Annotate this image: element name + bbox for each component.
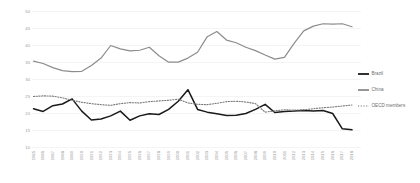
x-axis-tick-label: 1985	[31, 150, 36, 160]
y-axis-tick-label: 30	[25, 77, 30, 82]
y-axis-tick-label: 40	[25, 43, 30, 48]
y-axis-tick-label: 10	[25, 145, 30, 150]
x-axis-tick-label: 1996	[137, 150, 142, 160]
x-axis-tick-label: 1999	[166, 150, 171, 160]
legend-label-oecd-members: OECD members	[372, 103, 406, 108]
y-axis-tick-label: 15	[25, 128, 30, 133]
x-axis-tick-label: 2014	[310, 150, 315, 160]
x-axis-tick-label: 1993	[108, 150, 113, 160]
series-lines	[34, 24, 353, 130]
series-line-china	[34, 24, 353, 72]
x-axis-tick-label: 2016	[330, 150, 335, 160]
y-axis-tick-label: 20	[25, 111, 30, 116]
x-axis-tick-label: 2001	[185, 150, 190, 160]
y-axis-tick-label: 25	[25, 94, 30, 99]
x-axis-tick-label: 2015	[320, 150, 325, 160]
chart-container: 101520253035404550 198519861987198819891…	[0, 0, 420, 183]
x-axis-tick-label: 1997	[146, 150, 151, 160]
x-axis-tick-label: 1989	[69, 150, 74, 160]
y-axis-tick-label: 45	[25, 26, 30, 31]
y-axis-tick-label: 35	[25, 60, 30, 65]
x-axis-tick-label: 1990	[79, 150, 84, 160]
y-axis-tick-labels: 101520253035404550	[25, 9, 30, 150]
chart-legend: BrazilChinaOECD members	[358, 71, 406, 108]
x-axis-tick-label: 2005	[224, 150, 229, 160]
x-axis-tick-label: 2008	[253, 150, 258, 160]
x-axis-tick-label: 1992	[98, 150, 103, 160]
x-axis-tick-label: 1987	[50, 150, 55, 160]
line-chart: 101520253035404550 198519861987198819891…	[0, 0, 420, 183]
x-axis-tick-label: 1988	[60, 150, 65, 160]
x-axis-tick-label: 2012	[291, 150, 296, 160]
x-axis-tick-labels: 1985198619871988198919901991199219931994…	[31, 150, 355, 160]
x-axis-tick-label: 1994	[117, 150, 122, 160]
legend-label-brazil: Brazil	[372, 71, 384, 76]
x-axis-tick-label: 2010	[272, 150, 277, 160]
x-axis-tick-label: 1998	[156, 150, 161, 160]
x-axis-tick-label: 2017	[339, 150, 344, 160]
x-axis-tick-label: 2007	[243, 150, 248, 160]
x-axis-tick-label: 2018	[349, 150, 354, 160]
gridlines	[32, 12, 361, 148]
y-axis-tick-label: 50	[25, 9, 30, 14]
legend-label-china: China	[372, 87, 384, 92]
x-axis-tick-label: 2003	[204, 150, 209, 160]
x-axis-tick-label: 1995	[127, 150, 132, 160]
x-axis-tick-label: 2009	[262, 150, 267, 160]
x-axis-tick-label: 2004	[214, 150, 219, 160]
x-axis-tick-label: 1986	[40, 150, 45, 160]
x-axis-tick-label: 2013	[301, 150, 306, 160]
x-axis-tick-label: 2000	[175, 150, 180, 160]
x-axis-tick-label: 1991	[89, 150, 94, 160]
x-axis-tick-label: 2002	[195, 150, 200, 160]
x-axis-tick-label: 2006	[233, 150, 238, 160]
x-axis-tick-label: 2011	[282, 150, 287, 160]
